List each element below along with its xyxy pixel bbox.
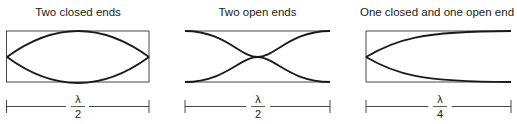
panel-2-denominator: 2	[248, 108, 268, 120]
tube-frame	[7, 31, 150, 82]
standing-wave-diagram	[0, 0, 517, 124]
panel-2-lambda: λ	[248, 93, 268, 105]
panel-1-denominator: 2	[68, 108, 88, 120]
panel-3-lambda: λ	[430, 93, 450, 105]
panel-1-lambda: λ	[68, 93, 88, 105]
wave-lower	[7, 57, 149, 83]
panel-3-denominator: 4	[430, 108, 450, 120]
wave-lower	[366, 57, 511, 82]
wave-upper	[366, 31, 511, 57]
wave-rising	[185, 31, 330, 82]
wave-upper	[7, 31, 149, 57]
